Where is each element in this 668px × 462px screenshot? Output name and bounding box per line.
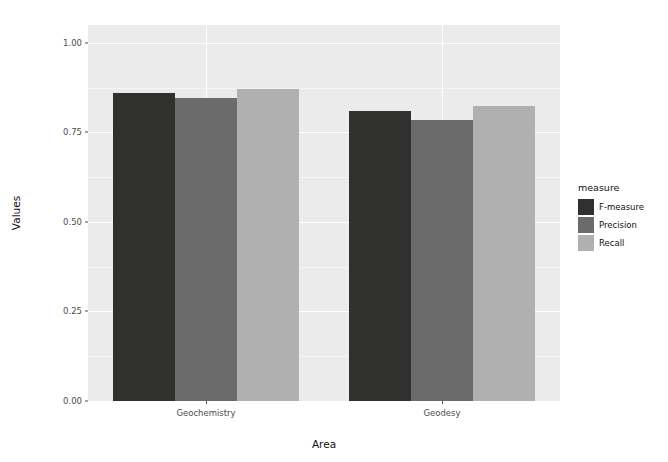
legend-swatch [578, 217, 594, 233]
plot-panel [88, 25, 560, 401]
gridline-minor [88, 88, 560, 89]
legend-title: measure [578, 182, 664, 193]
y-tick-label: 0.00 [63, 396, 82, 406]
legend-item[interactable]: F-measure [578, 198, 664, 216]
legend-label: Recall [599, 238, 624, 248]
legend-swatch [578, 235, 594, 251]
legend-swatch [578, 199, 594, 215]
x-tick-mark [442, 401, 443, 404]
bar-chart: Values Area measure F-measurePrecisionRe… [0, 0, 668, 462]
y-tick-mark [85, 42, 88, 43]
y-tick-label: 0.50 [63, 217, 82, 227]
gridline-major [88, 43, 560, 44]
y-tick-mark [85, 221, 88, 222]
bar [113, 93, 175, 401]
y-tick-label: 0.75 [63, 127, 82, 137]
legend-item[interactable]: Precision [578, 216, 664, 234]
gridline-major [88, 401, 560, 402]
y-tick-mark [85, 311, 88, 312]
bar [349, 111, 411, 401]
y-tick-mark [85, 132, 88, 133]
bar [175, 98, 237, 401]
x-tick-label: Geochemistry [176, 408, 235, 418]
x-tick-mark [206, 401, 207, 404]
y-tick-label: 0.25 [63, 306, 82, 316]
legend: measure F-measurePrecisionRecall [578, 182, 664, 252]
bar [237, 89, 299, 401]
bar [411, 120, 473, 401]
bar [473, 106, 535, 401]
legend-label: Precision [599, 220, 637, 230]
x-axis-title: Area [312, 438, 336, 450]
y-tick-mark [85, 401, 88, 402]
legend-item[interactable]: Recall [578, 234, 664, 252]
legend-label: F-measure [599, 202, 644, 212]
y-tick-label: 1.00 [63, 38, 82, 48]
x-tick-label: Geodesy [423, 408, 460, 418]
y-axis-title: Values [10, 196, 22, 230]
